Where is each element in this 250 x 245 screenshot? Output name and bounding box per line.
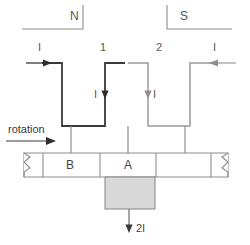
current-arrow-down-coil1 <box>101 91 108 100</box>
output-current-label: 2I <box>136 223 145 234</box>
current-down-left-label: I <box>94 89 97 100</box>
north-pole-label: N <box>70 10 79 22</box>
current-arrow-down-coil2 <box>144 91 151 100</box>
current-in-left-label: I <box>38 42 41 53</box>
diagram-canvas: N S I 1 2 I I I rotation B A 2I <box>0 0 250 245</box>
current-arrow-in-right <box>209 59 236 66</box>
current-down-right-label: I <box>153 89 156 100</box>
current-in-right-label: I <box>213 42 216 53</box>
coil-2-conductor <box>128 63 212 126</box>
coil-1-conductor <box>42 63 125 126</box>
output-current-arrow <box>125 209 132 233</box>
coil-1-label: 1 <box>100 42 106 53</box>
south-pole-bracket <box>167 5 232 29</box>
commutator-segment-a-label: A <box>124 159 132 171</box>
commutator-segment-b-label: B <box>66 159 74 171</box>
current-arrow-in-left <box>26 59 52 66</box>
rotation-label: rotation <box>8 124 45 135</box>
rotation-arrow <box>6 137 56 145</box>
south-pole-label: S <box>180 10 188 22</box>
brush-block <box>105 177 155 209</box>
coil-2-label: 2 <box>156 42 162 53</box>
